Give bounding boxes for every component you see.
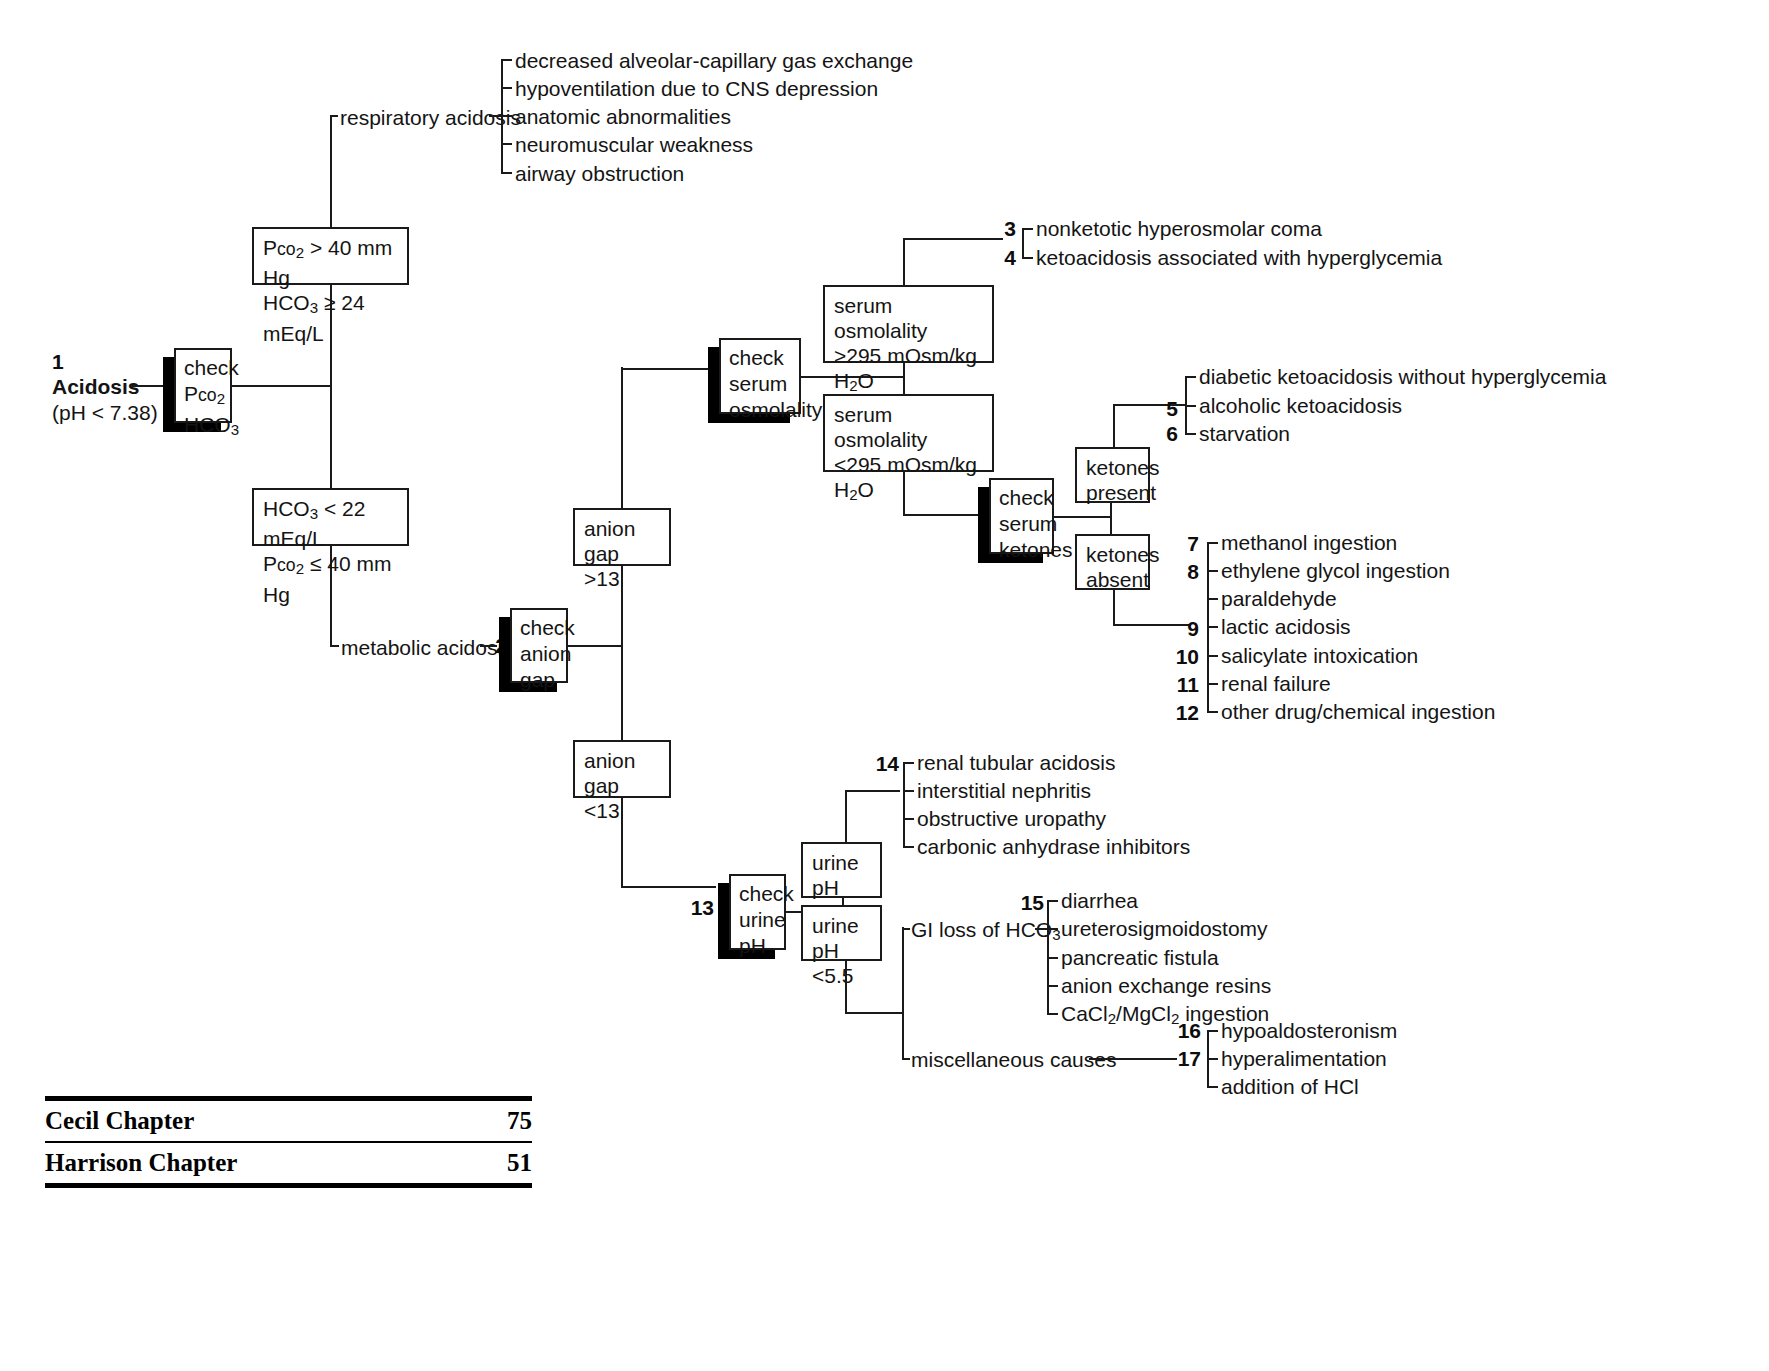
tick-uph-2 [903, 818, 914, 820]
connector-anion-high-to-osm [621, 368, 709, 370]
footer-label-harrison: Harrison Chapter [45, 1149, 237, 1177]
tick-gi-1 [1047, 928, 1058, 930]
tick-misc-2 [1207, 1086, 1218, 1088]
box-anion-gap-low: anion gap<13 [573, 740, 671, 798]
tick-keta-2 [1207, 598, 1218, 600]
label-metabolic-acidosis: metabolic acidosis [341, 635, 513, 660]
action-face: checkurinepH [729, 874, 786, 950]
tick-misc-1 [1207, 1058, 1218, 1060]
resp-cause-4: airway obstruction [515, 161, 684, 186]
tick-misc-0 [1207, 1030, 1218, 1032]
label-respiratory-acidosis: respiratory acidosis [340, 105, 521, 130]
resp-cause-0: decreased alveolar-capillary gas exchang… [515, 48, 913, 73]
label-gi-loss: GI loss of HCO3 [911, 917, 1061, 947]
gi-cause-1: ureterosigmoidostomy [1061, 916, 1268, 941]
ketones-absent-cause-0: methanol ingestion [1221, 530, 1397, 555]
tick-gi-4 [1047, 1013, 1058, 1015]
misc-cause-1: hyperalimentation [1221, 1046, 1387, 1071]
resp-cause-3: neuromuscular weakness [515, 132, 753, 157]
connector-spine-to-metab-label [330, 645, 339, 647]
root-sublabel: (pH < 7.38) [52, 400, 158, 425]
label-misc-causes: miscellaneous causes [911, 1047, 1116, 1072]
tick-ketp-1 [1185, 405, 1196, 407]
connector-urinelow-to-split [845, 1012, 904, 1014]
num-ketabsent-10: 10 [1167, 644, 1199, 669]
tick-resp-4 [501, 172, 512, 174]
connector-anion-low-to-urine [621, 886, 716, 888]
num-gi-15: 15 [1018, 890, 1044, 915]
box-anion-gap-high: anion gap>13 [573, 508, 671, 566]
tick-keta-4 [1207, 655, 1218, 657]
connector-split-to-misc [902, 1058, 910, 1060]
action-check-serum-ketones[interactable]: checkserumketones [978, 478, 1043, 554]
box-serum-osmolality-low: serumosmolality<295 mOsm/kg H2O [823, 394, 994, 472]
tick-resp-1 [501, 87, 512, 89]
box-ketones-absent: ketonesabsent [1075, 534, 1150, 590]
tick-gi-3 [1047, 985, 1058, 987]
ketones-absent-cause-1: ethylene glycol ingestion [1221, 558, 1450, 583]
tick-uph-1 [903, 790, 914, 792]
action-check-serum-osmolality[interactable]: checkserumosmolality [708, 338, 790, 414]
tick-uph-0 [903, 762, 914, 764]
footer-chapter-table: Cecil Chapter 75 Harrison Chapter 51 [45, 1096, 532, 1188]
ketones-absent-cause-5: renal failure [1221, 671, 1331, 696]
box-urine-ph-high: urine pH>5.5 [801, 842, 882, 898]
footer-rule-bottom [45, 1183, 532, 1188]
footer-row-cecil: Cecil Chapter 75 [45, 1101, 532, 1141]
num-ketabsent-8: 8 [1167, 559, 1199, 584]
connector-osmhigh-up [903, 238, 905, 286]
ketones-absent-cause-4: salicylate intoxication [1221, 643, 1418, 668]
num-ketabsent-9: 9 [1167, 616, 1199, 641]
ketones-present-cause-2: starvation [1199, 421, 1290, 446]
footer-value-harrison: 51 [507, 1149, 532, 1177]
tick-resp-0 [501, 59, 512, 61]
action-face: checkaniongap [510, 608, 568, 683]
connector-osmlow-down [903, 472, 905, 516]
tick-ketp-2 [1185, 433, 1196, 435]
tick-gi-0 [1047, 900, 1058, 902]
box-urine-ph-low: urine pH<5.5 [801, 905, 882, 961]
ketones-absent-cause-2: paraldehyde [1221, 586, 1337, 611]
connector-urinelow-down [845, 961, 847, 1014]
footer-value-cecil: 75 [507, 1107, 532, 1135]
resp-cause-2: anatomic abnormalities [515, 104, 731, 129]
gi-cause-0: diarrhea [1061, 888, 1138, 913]
tick-uph-3 [903, 846, 914, 848]
tick-resp-2 [501, 115, 512, 117]
num-misc-17: 17 [1175, 1046, 1201, 1071]
bracket-hyperosmolar [1022, 228, 1024, 257]
action-number-urine-ph: 13 [690, 895, 714, 920]
connector-action2-to-spine [568, 645, 623, 647]
tick-keta-0 [1207, 542, 1218, 544]
urine-high-cause-3: carbonic anhydrase inhibitors [917, 834, 1190, 859]
connector-osmhigh-to-bracket [903, 238, 1003, 240]
footer-label-cecil: Cecil Chapter [45, 1107, 194, 1135]
num-urinehigh-14: 14 [873, 751, 899, 776]
num-ketabsent-11: 11 [1167, 672, 1199, 697]
action-face: checkserumketones [989, 478, 1054, 554]
footer-row-harrison: Harrison Chapter 51 [45, 1143, 532, 1183]
action-check-anion-gap[interactable]: checkaniongap [499, 608, 557, 683]
connector-ketones-action-to-spine [1054, 516, 1112, 518]
resp-cause-1: hypoventilation due to CNS depression [515, 76, 878, 101]
box-ketones-present: ketonespresent [1075, 447, 1150, 503]
box-metabolic-criteria: HCO3 < 22 mEq/LPco2 ≤ 40 mm Hg [252, 488, 409, 546]
ketones-present-cause-1: alcoholic ketoacidosis [1199, 393, 1402, 418]
tick-ketp-0 [1185, 376, 1196, 378]
hyperosmolar-cause-1: ketoacidosis associated with hyperglycem… [1036, 245, 1442, 270]
urine-high-cause-2: obstructive uropathy [917, 806, 1106, 831]
acidosis-algorithm-diagram: 1 Acidosis (pH < 7.38) checkPco2HCO3 Pco… [0, 0, 1769, 1371]
action-check-pco2-hco3[interactable]: checkPco2HCO3 [163, 348, 221, 423]
root-label: Acidosis [52, 374, 140, 399]
connector-split-to-gi [902, 928, 910, 930]
connector-osmlow-to-ketones [903, 514, 980, 516]
split-urinelow-vertical [902, 927, 904, 1059]
connector-ketpresent-up [1113, 404, 1115, 448]
action-face: checkserumosmolality [719, 338, 801, 414]
tick-keta-5 [1207, 683, 1218, 685]
tick-keta-1 [1207, 570, 1218, 572]
num-ketpresent-6: 6 [1156, 421, 1178, 446]
ketones-absent-cause-3: lactic acidosis [1221, 614, 1351, 639]
connector-check1-to-spine [232, 385, 331, 387]
action-check-urine-ph[interactable]: checkurinepH [718, 874, 775, 950]
